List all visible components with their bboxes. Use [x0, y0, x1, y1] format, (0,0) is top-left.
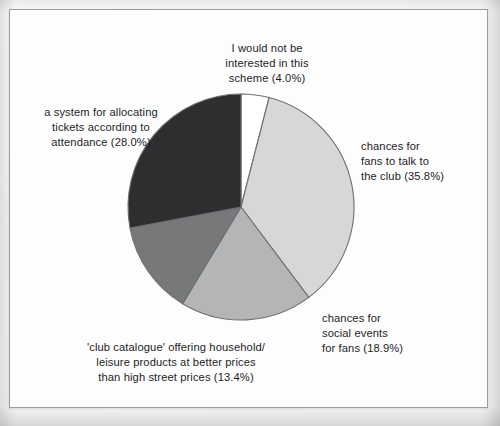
scanned-page-background: I would not be interested in this scheme…: [0, 0, 500, 426]
pie-label-talk-to-club: chances for fans to talk to the club (35…: [361, 139, 489, 185]
pie-label-social-events: chances for social events for fans (18.9…: [322, 311, 462, 357]
pie-label-allocating-tickets: a system for allocating tickets accordin…: [22, 105, 180, 151]
pie-label-club-catalogue: 'club catalogue' offering household/ lei…: [60, 340, 292, 386]
pie-label-not-interested: I would not be interested in this scheme…: [205, 41, 329, 87]
